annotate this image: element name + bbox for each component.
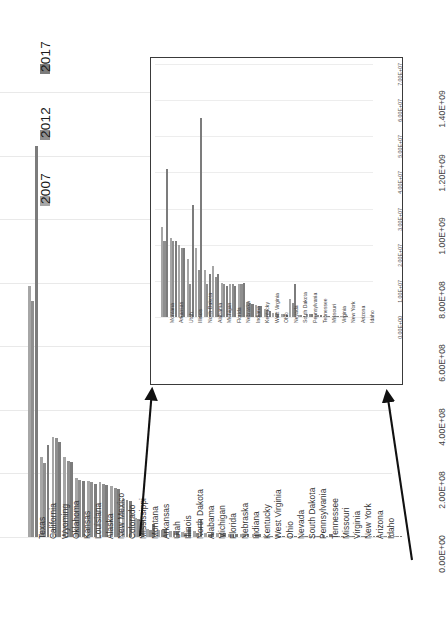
inset-x-axis-tick-label: Utah	[188, 312, 194, 323]
inset-bar-series	[161, 64, 371, 317]
inset-bar-group	[204, 64, 211, 317]
x-axis-tick-label: Idaho	[386, 518, 396, 539]
inset-bar	[251, 304, 253, 317]
inset-x-axis-tick-label: New York	[350, 301, 356, 323]
inset-bar-group	[229, 64, 236, 317]
main-y-axis: 0.00E+002.00E+084.00E+086.00E+088.00E+08…	[398, 0, 444, 629]
x-axis-tick-label: Arkansas	[161, 504, 171, 539]
x-axis-tick-label: Alabama	[206, 506, 216, 539]
inset-bar-group	[289, 64, 296, 317]
inset-x-axis-tick-label: Virginia	[341, 306, 347, 323]
bar-group	[87, 92, 97, 537]
inset-x-axis-tick-label: Tennessee	[322, 298, 328, 323]
y-axis-tick-label: 1.20E+09	[437, 154, 447, 192]
legend-item: 2007	[30, 168, 61, 206]
legend-item: 2017	[30, 36, 61, 74]
x-axis-tick-label: Arizona	[375, 510, 385, 539]
inset-x-axis-tick-label: Florida	[236, 307, 242, 323]
inset-x-axis-tick-label: Missouri	[331, 304, 337, 323]
inset-bar-chart: 0.00E+001.00E+072.00E+073.00E+074.00E+07…	[150, 57, 403, 385]
bar-group	[99, 92, 109, 537]
inset-x-axis-tick-label: Illinois	[197, 309, 203, 323]
legend-label: 2012	[38, 107, 53, 138]
inset-bar	[337, 316, 339, 317]
inset-bar-group	[332, 64, 339, 317]
inset-x-axis-tick-label: North Dakota	[207, 293, 213, 323]
inset-bar-group	[306, 64, 313, 317]
inset-y-axis-tick-label: 3.00E+07	[397, 208, 403, 231]
bar-group	[122, 92, 132, 537]
inset-bar	[200, 118, 202, 317]
inset-y-axis-tick-label: 1.00E+07	[397, 280, 403, 303]
inset-bar-group	[187, 64, 194, 317]
y-axis-tick-label: 2.00E+08	[437, 471, 447, 509]
inset-bar	[192, 205, 194, 317]
inset-x-axis-tick-label: Arkansas	[178, 302, 184, 323]
x-axis-tick-label: North Dakota	[195, 489, 205, 539]
x-axis-tick-label: Illinois	[183, 515, 193, 539]
legend-label: 2007	[38, 173, 53, 204]
inset-bar-group	[221, 64, 228, 317]
y-axis-tick-label: 0.00E+00	[437, 535, 447, 573]
x-axis-tick-label: California	[48, 503, 58, 539]
inset-bar	[166, 169, 168, 317]
inset-bar-group	[212, 64, 219, 317]
x-axis-tick-label: Tennessee	[330, 498, 340, 539]
inset-bar-group	[246, 64, 253, 317]
inset-bar-group	[170, 64, 177, 317]
x-axis-tick-label: Texas	[37, 517, 47, 539]
legend-label: 2017	[38, 41, 53, 72]
y-axis-tick-label: 1.40E+09	[437, 90, 447, 128]
inset-bar-group	[264, 64, 271, 317]
inset-bar-group	[178, 64, 185, 317]
x-axis-tick-label: Michigan	[217, 505, 227, 539]
inset-x-axis-tick-label: Idaho	[369, 310, 375, 323]
inset-x-axis-tick-label: South Dakota	[302, 292, 308, 323]
inset-y-axis: 0.00E+001.00E+072.00E+073.00E+074.00E+07…	[371, 58, 401, 384]
inset-bar-group	[255, 64, 262, 317]
x-axis-tick-label: Florida	[228, 513, 238, 539]
inset-y-axis-tick-label: 6.00E+07	[397, 99, 403, 122]
x-axis-tick-label: South Dakota	[307, 488, 317, 539]
inset-bar-group	[195, 64, 202, 317]
main-x-axis: TexasCaliforniaWyomingOklahomaKansasLoui…	[28, 537, 388, 629]
inset-y-axis-tick-label: 2.00E+07	[397, 244, 403, 267]
x-axis-tick-label: Virginia	[352, 511, 362, 539]
x-axis-tick-label: Ohio	[285, 521, 295, 539]
inset-bar-group	[238, 64, 245, 317]
x-axis-tick-label: New York	[363, 503, 373, 539]
inset-x-axis-tick-label: Nevada	[293, 305, 299, 323]
inset-x-axis-tick-label: Arizona	[360, 306, 366, 323]
x-axis-tick-label: New Mexico	[116, 493, 126, 539]
inset-bar-group	[315, 64, 322, 317]
x-axis-tick-label: Montana	[150, 506, 160, 539]
chart-legend: 201720122007	[22, 36, 68, 231]
inset-y-axis-tick-label: 5.00E+07	[397, 135, 403, 158]
inset-x-axis-tick-label: Pennsylvania	[312, 293, 318, 323]
x-axis-tick-label: Wyoming	[60, 504, 70, 539]
inset-bar-group	[161, 64, 168, 317]
inset-x-axis-tick-label: West Virginia	[274, 293, 280, 323]
inset-plot-area	[161, 64, 371, 317]
inset-bar-group	[340, 64, 347, 317]
inset-x-axis-tick-label: Michigan	[226, 303, 232, 323]
inset-bar-group	[281, 64, 288, 317]
inset-x-axis-tick-label: Indiana	[255, 306, 261, 323]
x-axis-tick-label: Kansas	[82, 511, 92, 539]
y-axis-tick-label: 4.00E+08	[437, 408, 447, 446]
x-axis-tick-label: Indiana	[251, 511, 261, 539]
inset-x-axis-tick-label: Ohio	[283, 312, 289, 323]
y-axis-tick-label: 8.00E+08	[437, 281, 447, 319]
bar-group	[110, 92, 120, 537]
x-axis-tick-label: Missouri	[341, 507, 351, 539]
inset-x-axis: MontanaArkansasUtahIllinoisNorth DakotaA…	[161, 322, 371, 384]
bar-group	[75, 92, 85, 537]
x-axis-tick-label: Colorado	[127, 505, 137, 539]
x-axis-tick-label: Nebraska	[240, 503, 250, 539]
x-axis-tick-label: Kentucky	[262, 504, 272, 539]
x-axis-tick-label: Louisiana	[93, 503, 103, 539]
inset-x-axis-tick-label: Kentucky	[264, 302, 270, 323]
y-axis-tick-label: 6.00E+08	[437, 344, 447, 382]
x-axis-tick-label: Oklahoma	[71, 500, 81, 539]
